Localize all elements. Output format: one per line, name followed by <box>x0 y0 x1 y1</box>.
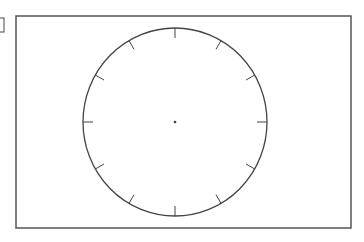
frame-border <box>16 16 351 228</box>
clock-center-dot <box>174 121 177 124</box>
side-marker <box>0 18 4 32</box>
hour-tick <box>129 41 134 50</box>
hour-tick <box>95 75 104 80</box>
diagram-canvas <box>0 0 364 242</box>
hour-tick <box>246 75 255 80</box>
hour-tick <box>129 195 134 204</box>
hour-tick <box>246 164 255 169</box>
hour-tick <box>216 41 221 50</box>
hour-tick <box>95 164 104 169</box>
hour-tick <box>216 195 221 204</box>
